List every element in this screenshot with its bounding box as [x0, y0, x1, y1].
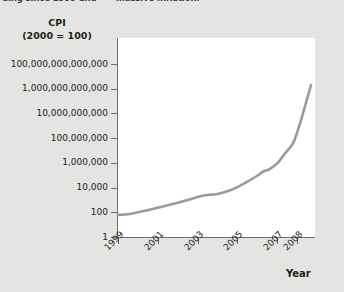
caption-fragment-right: massive inflation. [116, 0, 200, 3]
y-tick-label: 10,000,000,000 [36, 109, 108, 118]
y-tick-label: 100 [91, 208, 108, 217]
y-tick-label: 100,000,000 [51, 134, 108, 143]
y-tick-label: 1,000,000 [62, 158, 108, 167]
y-axis-title-line1: CPI [0, 16, 114, 29]
caption-fragment-left: ding since 1999 and [2, 0, 96, 3]
y-tick-label: 10,000 [77, 183, 109, 192]
y-tick-mark [111, 163, 117, 164]
y-tick-mark [111, 64, 117, 65]
y-tick-label: 1,000,000,000,000 [22, 84, 108, 93]
y-axis-line [117, 38, 118, 238]
y-tick-label: 100,000,000,000,000 [11, 60, 108, 69]
y-axis-title-line2: (2000 = 100) [0, 29, 114, 42]
plot-area [118, 38, 315, 237]
chart-screenshot: ding since 1999 and massive inflation. C… [0, 0, 344, 292]
clipped-caption: ding since 1999 and massive inflation. [0, 0, 344, 5]
x-axis-title: Year [286, 268, 311, 279]
x-axis-line [117, 237, 315, 238]
y-tick-mark [111, 138, 117, 139]
y-tick-mark [111, 188, 117, 189]
y-tick-mark [111, 212, 117, 213]
y-tick-mark [111, 89, 117, 90]
y-axis-title: CPI (2000 = 100) [0, 16, 114, 42]
y-tick-mark [111, 113, 117, 114]
